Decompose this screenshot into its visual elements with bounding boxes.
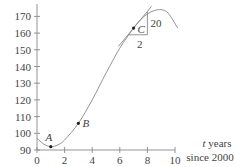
x-tick-label: 8 xyxy=(145,154,151,166)
y-tick-label: 90 xyxy=(20,144,32,156)
point-label-a: A xyxy=(44,131,52,143)
chart: 90100110120130140150160170 0246810 220 A… xyxy=(0,0,235,167)
x-tick-label: 2 xyxy=(62,154,68,166)
y-tick-label: 110 xyxy=(15,111,32,123)
y-tick-label: 170 xyxy=(15,10,32,22)
data-point-a xyxy=(49,145,52,148)
x-tick-label: 10 xyxy=(170,154,182,166)
y-tick-label: 130 xyxy=(15,77,32,89)
data-curve xyxy=(37,10,178,147)
data-points: ABC xyxy=(44,23,145,148)
x-axis-label-line1: t years xyxy=(202,137,231,149)
x-axis-label-line2: since 2000 xyxy=(186,151,234,163)
y-tick-label: 120 xyxy=(15,94,32,106)
point-label-c: C xyxy=(138,23,146,35)
data-point-c xyxy=(132,26,135,29)
x-axis: 0246810 xyxy=(34,147,181,166)
y-tick-label: 100 xyxy=(15,127,32,139)
run-label: 2 xyxy=(137,38,143,50)
data-point-b xyxy=(77,122,80,125)
x-tick-label: 0 xyxy=(34,154,40,166)
x-tick-label: 4 xyxy=(89,154,95,166)
y-tick-label: 150 xyxy=(15,44,32,56)
point-label-b: B xyxy=(82,117,89,129)
y-tick-label: 140 xyxy=(15,61,32,73)
rise-label: 20 xyxy=(150,17,162,29)
y-axis: 90100110120130140150160170 xyxy=(15,4,41,156)
y-tick-label: 160 xyxy=(15,27,32,39)
tangent-line xyxy=(118,6,151,46)
x-tick-label: 6 xyxy=(117,154,123,166)
